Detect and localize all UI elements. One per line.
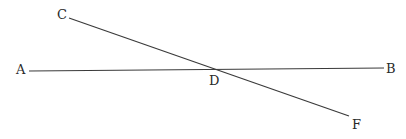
diagram-canvas: A B C D F: [0, 0, 406, 139]
point-label-a: A: [16, 63, 25, 76]
point-label-d: D: [209, 74, 219, 87]
point-label-c: C: [57, 8, 67, 21]
point-label-f: F: [352, 118, 361, 131]
line-cf: [69, 18, 349, 116]
point-label-b: B: [386, 62, 396, 75]
line-ab: [29, 68, 384, 71]
